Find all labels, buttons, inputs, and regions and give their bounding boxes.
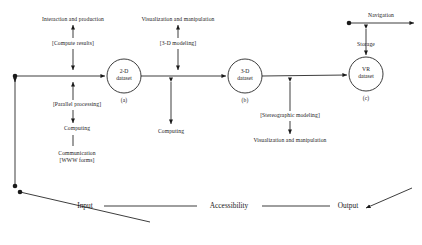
junction-dot-diagonal-start <box>18 190 23 195</box>
label-computing-left: Computing <box>64 125 90 132</box>
node-2d-dataset-label: 2-D dataset <box>116 68 132 83</box>
axis-label-output: Output <box>338 201 359 210</box>
node-2d-line1: 2-D <box>116 68 132 75</box>
node-3d-dataset-label: 3-D dataset <box>237 68 253 83</box>
junction-dot-spine-left <box>13 74 18 79</box>
label-navigation: Navigation <box>368 12 394 19</box>
node-2d-line2: dataset <box>116 75 132 82</box>
node-vr-line2: dataset <box>358 73 374 80</box>
node-vr-dataset-label: VR dataset <box>358 66 374 81</box>
label-storage: Storage <box>357 41 375 48</box>
label-compute-results: [Compute results] <box>52 40 94 47</box>
label-visualization-and-manipulation-top: Visualization and manipulation <box>142 16 215 23</box>
junction-dot-return-bottom <box>13 184 18 189</box>
node-3d-line1: 3-D <box>237 68 253 75</box>
label-communication-line1: Communication <box>58 150 95 157</box>
node-vr-caption: (c) <box>363 95 370 102</box>
node-2d-caption: (a) <box>121 97 128 104</box>
label-parallel-processing: [Parallel processing] <box>53 101 101 108</box>
axis-label-accessibility: Accessibility <box>210 201 249 210</box>
label-computing-middle: Computing <box>158 128 184 135</box>
junction-dot-navigation-left <box>347 21 352 26</box>
axis-label-input: Input <box>77 201 93 210</box>
node-vr-line1: VR <box>358 66 374 73</box>
label-communication-www: Communication [WWW forms] <box>58 150 95 164</box>
label-visualization-and-manipulation-bottom: Visualization and manipulation <box>254 137 327 144</box>
node-3d-line2: dataset <box>237 75 253 82</box>
label-stereographic-modeling: [Stereographic modeling] <box>260 112 320 119</box>
node-3d-caption: (b) <box>242 97 249 104</box>
label-interaction-and-production: Interaction and production <box>42 16 104 23</box>
diagram-canvas: 2-D dataset (a) 3-D dataset (b) VR datas… <box>0 0 422 245</box>
label-communication-line2: [WWW forms] <box>58 157 95 164</box>
label-three-d-modeling: [3-D modeling] <box>160 40 196 47</box>
